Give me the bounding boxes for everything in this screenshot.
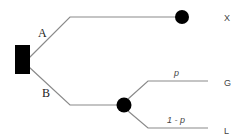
- terminal-node-a: [175, 10, 189, 24]
- decision-node-square: [15, 45, 30, 74]
- decision-tree-diagram: A B p 1 - p X G L: [0, 0, 240, 139]
- outcome-g-label: G: [224, 78, 231, 88]
- branch-b-label: B: [42, 86, 50, 100]
- probability-1-minus-p-label: 1 - p: [167, 115, 185, 125]
- branch-a-line: [29, 17, 178, 58]
- probability-p-label: p: [173, 68, 179, 78]
- branch-p-line: [128, 81, 208, 99]
- branch-a-label: A: [38, 26, 47, 40]
- outcome-x-label: X: [224, 13, 230, 23]
- outcome-l-label: L: [224, 126, 229, 136]
- chance-node-b: [117, 98, 132, 113]
